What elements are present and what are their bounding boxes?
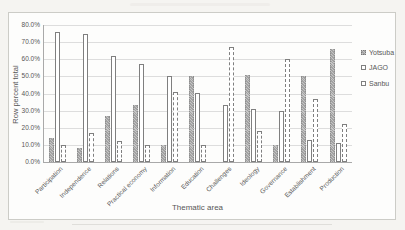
bar-yotsuba-information bbox=[161, 145, 166, 162]
chart-screenshot: Row percent total Thematic area Yotsuba … bbox=[0, 0, 405, 230]
bar-jago-practical-economy bbox=[139, 64, 144, 162]
bar-jago-challenges bbox=[223, 105, 228, 162]
bar-yotsuba-production bbox=[330, 49, 335, 162]
bar-sanbu-independence bbox=[89, 133, 94, 162]
bar-sanbu-participation bbox=[61, 145, 66, 162]
y-axis-line bbox=[43, 25, 44, 162]
bar-jago-independence bbox=[83, 34, 88, 162]
legend-item-jago: JAGO bbox=[361, 63, 394, 73]
gridline bbox=[43, 42, 352, 43]
bar-sanbu-ideology bbox=[257, 131, 262, 162]
bar-yotsuba-establishment bbox=[301, 76, 306, 162]
bar-jago-participation bbox=[55, 32, 60, 162]
y-tick-label: 0.0% bbox=[10, 159, 40, 165]
legend-label-jago: JAGO bbox=[369, 64, 388, 71]
bar-sanbu-practical-economy bbox=[145, 145, 150, 162]
x-axis-line bbox=[43, 162, 352, 163]
bar-yotsuba-participation bbox=[49, 138, 54, 162]
scan-artifact-top bbox=[130, 3, 270, 6]
x-axis-title: Thematic area bbox=[43, 203, 352, 212]
gridline bbox=[43, 59, 352, 60]
y-tick-label: 40.0% bbox=[10, 91, 40, 97]
legend-item-sanbu: Sanbu bbox=[361, 78, 394, 88]
legend-swatch-sanbu bbox=[361, 81, 366, 86]
y-tick-label: 10.0% bbox=[10, 142, 40, 148]
y-tick-label: 20.0% bbox=[10, 125, 40, 131]
y-tick-label: 70.0% bbox=[10, 39, 40, 45]
scan-artifact-bottom-rule bbox=[72, 224, 332, 225]
bar-jago-education bbox=[195, 93, 200, 162]
bar-sanbu-information bbox=[173, 92, 178, 162]
gridline bbox=[43, 25, 352, 26]
bar-jago-information bbox=[167, 76, 172, 162]
legend-item-yotsuba: Yotsuba bbox=[361, 47, 394, 57]
y-tick-label: 30.0% bbox=[10, 108, 40, 114]
bar-sanbu-governance bbox=[285, 59, 290, 162]
legend-label-yotsuba: Yotsuba bbox=[369, 49, 394, 56]
bar-jago-establishment bbox=[307, 140, 312, 162]
bar-yotsuba-education bbox=[189, 76, 194, 162]
legend-swatch-jago bbox=[361, 65, 366, 70]
scan-artifact-bottom-left bbox=[10, 221, 44, 223]
bar-sanbu-relations bbox=[117, 141, 122, 162]
legend-label-sanbu: Sanbu bbox=[369, 80, 389, 87]
legend-swatch-yotsuba bbox=[361, 50, 366, 55]
bar-yotsuba-practical-economy bbox=[133, 105, 138, 162]
bar-yotsuba-ideology bbox=[245, 75, 250, 162]
legend: Yotsuba JAGO Sanbu bbox=[361, 47, 394, 94]
y-tick-label: 60.0% bbox=[10, 56, 40, 62]
bar-sanbu-production bbox=[342, 124, 347, 162]
bar-jago-relations bbox=[111, 56, 116, 162]
bar-yotsuba-independence bbox=[77, 148, 82, 162]
bar-sanbu-education bbox=[201, 145, 206, 162]
bar-jago-production bbox=[336, 143, 341, 162]
bar-jago-governance bbox=[279, 111, 284, 162]
bar-jago-ideology bbox=[251, 109, 256, 162]
y-tick-label: 80.0% bbox=[10, 22, 40, 28]
bar-sanbu-challenges bbox=[229, 47, 234, 162]
bar-yotsuba-governance bbox=[273, 145, 278, 162]
bar-sanbu-establishment bbox=[313, 99, 318, 162]
bar-yotsuba-relations bbox=[105, 116, 110, 162]
y-tick-label: 50.0% bbox=[10, 73, 40, 79]
